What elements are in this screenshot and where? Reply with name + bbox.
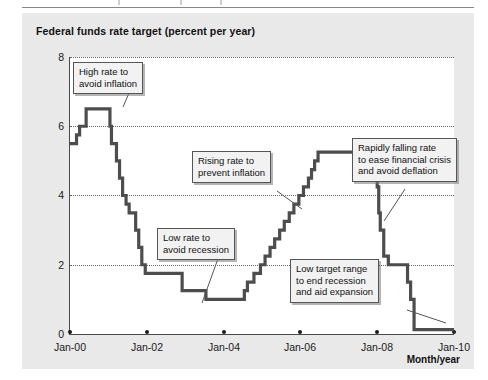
- annotation-high-rate-line-1: High rate to: [79, 66, 137, 78]
- annotation-falling-rate: Rapidly falling rate to ease financial c…: [352, 138, 457, 182]
- annotation-low-rate-line-2: avoid recession: [163, 244, 229, 256]
- chart-title: Federal funds rate target (percent per y…: [36, 25, 255, 37]
- annotation-low-target-range-line-1: Low target range: [296, 263, 373, 275]
- page-top-ghost-text: [110, 0, 230, 5]
- annotation-falling-rate-line-3: and avoid deflation: [358, 165, 451, 177]
- x-axis-line: [69, 334, 454, 335]
- annotation-low-target-range-line-2: to end recession: [296, 275, 373, 287]
- annotation-rising-rate: Rising rate to prevent inflation: [192, 151, 271, 183]
- annotation-falling-rate-line-1: Rapidly falling rate: [358, 142, 451, 154]
- y-tick-label-2: 2: [50, 259, 64, 271]
- chart-figure-panel: Federal funds rate target (percent per y…: [22, 13, 474, 369]
- annotation-low-target-range-line-3: and aid expansion: [296, 286, 373, 298]
- annotation-rising-rate-line-2: prevent inflation: [198, 167, 265, 179]
- x-tick-label-jan04: Jan-04: [208, 341, 240, 353]
- page-top-rule: [22, 7, 474, 8]
- x-tick-label-jan08: Jan-08: [361, 341, 393, 353]
- x-tick-label-jan02: Jan-02: [131, 341, 163, 353]
- y-tick-label-6: 6: [50, 120, 64, 132]
- x-axis-title: Month/year: [407, 354, 460, 365]
- y-tick-label-8: 8: [50, 51, 64, 63]
- annotation-high-rate-line-2: avoid inflation: [79, 78, 137, 90]
- annotation-low-rate: Low rate to avoid recession: [157, 228, 235, 260]
- annotation-low-target-range: Low target range to end recession and ai…: [290, 259, 379, 303]
- annotation-rising-rate-line-1: Rising rate to: [198, 155, 265, 167]
- y-tick-label-4: 4: [50, 189, 64, 201]
- x-tick-label-jan10: Jan-10: [438, 341, 470, 353]
- x-tick-label-jan06: Jan-06: [284, 341, 316, 353]
- step-line-series: [70, 57, 454, 334]
- x-tick-label-jan00: Jan-00: [54, 341, 86, 353]
- annotation-low-rate-line-1: Low rate to: [163, 232, 229, 244]
- annotation-falling-rate-line-2: to ease financial crisis: [358, 154, 451, 166]
- y-tick-label-0: 0: [50, 328, 64, 340]
- annotation-high-rate: High rate to avoid inflation: [73, 62, 143, 94]
